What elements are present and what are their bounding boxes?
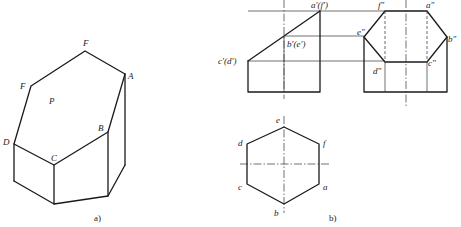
label-e: e <box>276 115 280 125</box>
side-view <box>364 0 447 108</box>
label-A: A <box>127 71 134 81</box>
label-a: a <box>323 182 328 192</box>
label-a-f-prime: a′(f′) <box>311 0 328 10</box>
front-view <box>248 0 320 99</box>
label-c-d-prime: c′(d′) <box>218 56 236 66</box>
pictorial-labels: F A F P D B C a) <box>2 38 134 223</box>
label-D: D <box>2 137 10 147</box>
label-F-top: F <box>82 38 89 48</box>
label-c: c <box>238 182 242 192</box>
label-b-e-prime: b′(e′) <box>287 39 305 49</box>
label-F-left: F <box>19 81 26 91</box>
drawing: F A F P D B C a) a′(f′) b′(e′) c′(d′) <box>0 0 461 227</box>
label-b-dprime: b″ <box>448 34 457 44</box>
top-hexagon <box>247 127 319 204</box>
label-f-dprime: f″ <box>378 0 385 10</box>
top-view-labels: e d f c a b b) <box>238 115 337 223</box>
side-cut-face <box>364 11 447 62</box>
label-d-dprime: d″ <box>373 66 382 76</box>
caption-a: a) <box>94 213 101 223</box>
figure-canvas: F A F P D B C a) a′(f′) b′(e′) c′(d′) <box>0 0 461 227</box>
label-a-dprime: a″ <box>426 0 435 10</box>
pictorial-view <box>14 51 125 204</box>
front-view-labels: a′(f′) b′(e′) c′(d′) <box>218 0 328 66</box>
label-P: P <box>48 96 55 106</box>
label-B: B <box>98 123 104 133</box>
label-f: f <box>323 138 327 148</box>
label-C: C <box>51 153 58 163</box>
label-b: b <box>274 208 279 218</box>
label-e-dprime: e″ <box>357 27 365 37</box>
top-view <box>240 116 329 213</box>
label-d: d <box>238 138 243 148</box>
caption-b: b) <box>329 213 337 223</box>
label-c-dprime: c″ <box>428 58 436 68</box>
